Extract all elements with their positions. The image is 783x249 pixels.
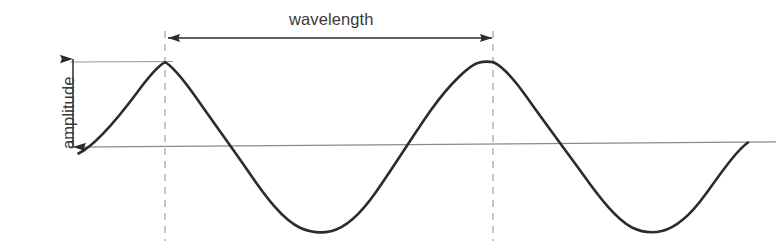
wave-diagram-canvas <box>0 0 783 249</box>
sine-wave-curve <box>79 62 749 233</box>
wave-anatomy-diagram: wavelength amplitude <box>0 0 783 249</box>
amplitude-label: amplitude <box>60 77 77 149</box>
wavelength-label: wavelength <box>289 11 373 28</box>
equilibrium-baseline <box>69 142 776 147</box>
crest-guide-line <box>70 62 173 63</box>
